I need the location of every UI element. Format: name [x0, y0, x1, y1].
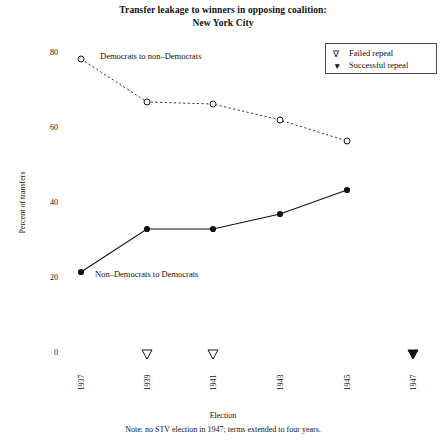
- x-axis-label: Election: [0, 411, 446, 420]
- data-point: [344, 187, 350, 193]
- data-point: [277, 117, 283, 123]
- data-point: [144, 226, 150, 232]
- legend-label: Successful repeal: [349, 60, 408, 70]
- series-label-non-democrats-to-democrats: Non–Democrats to Democrats: [95, 269, 198, 279]
- data-point: [78, 269, 84, 275]
- data-point: [78, 56, 84, 62]
- series-label-democrats-to-non-democrats: Democrats to non–Democrats: [100, 51, 202, 61]
- event-marker-successful-repeal-1947: [408, 350, 418, 359]
- filled-triangle-down-icon: ▼: [333, 61, 341, 71]
- legend: ∇ Failed repeal ▼ Successful repeal: [325, 43, 437, 74]
- data-point: [344, 138, 350, 144]
- series-democrats-to-non-democrats: [78, 56, 350, 144]
- chart-note: Note: no STV election in 1947; terms ext…: [0, 425, 446, 434]
- series-line-dashed: [81, 59, 347, 141]
- data-point: [277, 211, 283, 217]
- series-non-democrats-to-democrats: [78, 187, 350, 275]
- data-point: [144, 99, 150, 105]
- open-triangle-down-icon: ∇: [333, 49, 339, 59]
- data-point: [210, 101, 216, 107]
- chart-figure: Transfer leakage to winners in opposing …: [0, 0, 446, 441]
- data-point: [210, 226, 216, 232]
- event-marker-failed-repeal-1939: [142, 350, 152, 359]
- legend-label: Failed repeal: [349, 48, 393, 58]
- event-marker-failed-repeal-1941: [208, 350, 218, 359]
